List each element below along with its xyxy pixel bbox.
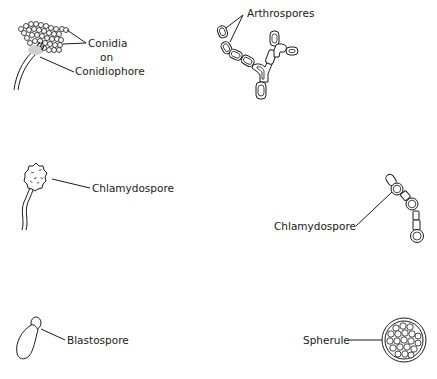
chlamydospore-intercalary-figure	[356, 173, 424, 243]
arthrospores-figure	[216, 15, 298, 99]
conidiophore-leader-line	[40, 57, 74, 72]
blastospore-figure	[17, 317, 65, 359]
spherule-label: Spherule	[303, 334, 350, 346]
chlamydospore-intercalary-label: Chlamydospore	[274, 220, 356, 232]
spherule-figure	[349, 318, 426, 362]
conidiophore-label: Conidiophore	[75, 65, 145, 77]
conidia-cluster	[19, 22, 69, 53]
chlamydospore-terminal-label: Chlamydospore	[92, 182, 174, 194]
on-label: on	[100, 51, 113, 63]
chlamydospore-terminal-leader-line	[52, 179, 90, 188]
blastospore-label: Blastospore	[67, 334, 129, 346]
arthrospores-leader-line	[226, 15, 243, 42]
blastospore-leader-line	[41, 329, 65, 340]
arthrospores-label: Arthrospores	[247, 7, 314, 19]
chlamydospore-terminal-figure	[22, 163, 90, 230]
chlamydospore-intercalary-leader-line	[356, 192, 392, 226]
conidia-label: Conidia	[88, 37, 127, 49]
fungal-spore-diagram: Conidia on Conidiophore Arthrospores	[0, 0, 437, 379]
conidia-on-conidiophore-figure	[14, 22, 86, 91]
